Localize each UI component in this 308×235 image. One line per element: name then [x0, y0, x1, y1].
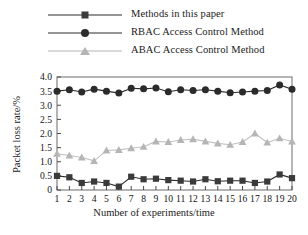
data-point-marker [251, 130, 259, 137]
chart-figure: Methods in this paper RBAC Access Contro… [0, 0, 308, 235]
data-point-marker [177, 86, 184, 93]
x-axis-tick-label: 5 [104, 193, 109, 204]
data-point-marker [202, 86, 209, 93]
data-point-marker [91, 178, 97, 184]
data-point-marker [165, 88, 172, 95]
x-axis-tick-label: 17 [250, 193, 260, 204]
data-point-marker [165, 177, 171, 183]
x-axis-tick-label: 7 [129, 193, 134, 204]
x-axis-tick-label: 19 [275, 193, 285, 204]
data-point-marker [202, 176, 208, 182]
data-point-marker [264, 178, 270, 184]
data-point-marker [115, 90, 122, 97]
x-axis-tick-label: 2 [67, 193, 72, 204]
x-axis-tick-label: 13 [201, 193, 211, 204]
data-point-marker [289, 175, 295, 181]
data-point-marker [190, 87, 197, 94]
data-point-marker [78, 88, 85, 95]
data-point-marker [140, 176, 146, 182]
x-axis-tick-label: 11 [176, 193, 185, 204]
data-point-marker [251, 88, 258, 95]
data-point-marker [227, 89, 234, 96]
x-axis-tick-label: 14 [213, 193, 223, 204]
y-axis-tick-label: 0.5 [40, 170, 52, 181]
data-point-marker [239, 178, 245, 184]
data-point-marker [252, 180, 258, 186]
data-point-marker [140, 85, 147, 92]
data-point-marker [239, 138, 247, 145]
data-point-marker [66, 86, 73, 93]
data-point-marker [178, 178, 184, 184]
data-point-marker [53, 150, 61, 157]
x-axis-title: Number of experiments/time [0, 207, 308, 218]
x-axis-tick-label: 20 [287, 193, 297, 204]
x-axis-tick-label: 9 [154, 193, 159, 204]
data-point-marker [214, 88, 221, 95]
data-point-marker [276, 81, 283, 88]
data-point-marker [152, 138, 160, 145]
data-point-marker [239, 88, 246, 95]
x-axis-tick-label: 10 [164, 193, 174, 204]
y-axis-tick-label: 3.0 [40, 100, 52, 111]
data-point-marker [276, 134, 284, 141]
data-point-marker [128, 85, 135, 92]
data-point-marker [152, 85, 159, 92]
y-axis-tick-label: 1.5 [40, 142, 52, 153]
series-square [54, 171, 295, 189]
data-point-marker [215, 178, 221, 184]
data-point-marker [289, 86, 296, 93]
x-axis-tick-label: 6 [116, 193, 121, 204]
x-axis-tick-label: 18 [262, 193, 272, 204]
y-axis-tick-label: 2.5 [40, 114, 52, 125]
x-axis-tick-label: 1 [55, 193, 60, 204]
data-point-marker [116, 184, 122, 190]
plot-area: 00.51.01.52.02.53.03.54.0123456789101112… [0, 0, 308, 235]
y-axis-tick-label: 2.0 [40, 128, 52, 139]
data-point-marker [91, 86, 98, 93]
data-point-marker [190, 178, 196, 184]
data-point-marker [103, 88, 110, 95]
plot-svg: 00.51.01.52.02.53.03.54.0123456789101112… [0, 0, 308, 235]
y-axis-tick-label: 0 [47, 184, 52, 195]
y-axis-tick-label: 3.5 [40, 86, 52, 97]
data-point-marker [103, 180, 109, 186]
y-axis-tick-label: 4.0 [40, 71, 52, 82]
series-circle [54, 81, 296, 96]
data-point-marker [79, 180, 85, 186]
data-point-marker [128, 174, 134, 180]
data-point-marker [227, 178, 233, 184]
data-point-marker [189, 135, 197, 142]
x-axis-tick-label: 4 [92, 193, 97, 204]
series-triangle [53, 130, 296, 164]
y-axis-tick-label: 1.0 [40, 156, 52, 167]
data-point-marker [140, 143, 148, 150]
x-axis-tick-label: 16 [238, 193, 248, 204]
data-point-marker [264, 87, 271, 94]
x-axis-tick-label: 3 [79, 193, 84, 204]
x-axis-tick-label: 12 [188, 193, 198, 204]
data-point-marker [54, 173, 60, 179]
data-point-marker [54, 88, 61, 95]
data-point-marker [66, 174, 72, 180]
x-axis-tick-label: 8 [141, 193, 146, 204]
data-point-marker [153, 176, 159, 182]
x-axis-tick-label: 15 [225, 193, 235, 204]
data-point-marker [277, 171, 283, 177]
